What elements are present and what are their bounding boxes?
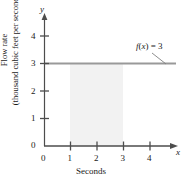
y-tick-label-3: 3 <box>31 59 36 68</box>
y-axis-title-line-2: (thousand cubic feet per second) <box>10 0 21 115</box>
shaded-area-under-curve <box>70 63 123 146</box>
function-annotation-label: f(x) = 3 <box>136 42 163 51</box>
x-tick-label-3: 3 <box>121 154 126 163</box>
annotation-paren-close: ) <box>146 41 149 51</box>
annotation-constant-value: 3 <box>158 41 163 51</box>
y-axis-title-line-1: Flow rate <box>0 0 10 115</box>
annotation-leader-line <box>152 53 166 64</box>
x-tick-label-2: 2 <box>94 154 99 163</box>
annotation-equals-sign: = <box>151 41 156 51</box>
x-tick-label-0: 0 <box>41 154 46 163</box>
x-axis-variable-label: x <box>176 148 180 157</box>
y-tick-label-0: 0 <box>31 141 36 150</box>
x-tick-label-1: 1 <box>68 154 73 163</box>
x-axis-title: Seconds <box>76 167 106 176</box>
x-tick-label-4: 4 <box>147 154 152 163</box>
y-tick-label-1: 1 <box>31 114 36 123</box>
y-tick-label-4: 4 <box>31 32 36 41</box>
y-axis-arrow-icon <box>42 13 48 20</box>
y-axis-title: Flow rate (thousand cubic feet per secon… <box>0 0 23 115</box>
y-tick-label-2: 2 <box>31 87 36 96</box>
flow-rate-chart-figure: y x 0 1 2 3 4 0 1 2 3 4 Seconds Flow rat… <box>0 0 185 182</box>
y-axis-variable-label: y <box>40 5 44 14</box>
chart-plot-area <box>0 0 185 182</box>
